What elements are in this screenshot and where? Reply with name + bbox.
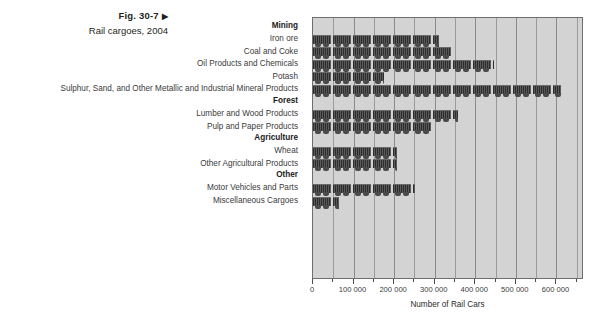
group-heading: Forest — [273, 97, 305, 105]
rail-car-icon — [313, 159, 331, 172]
rail-car-icon — [333, 35, 351, 48]
rail-car-icon — [313, 184, 331, 197]
gridline — [556, 18, 557, 278]
x-axis-tick-label: 600 000 — [542, 285, 569, 294]
figure-number-text: Fig. 30-7 — [118, 10, 158, 21]
rail-car-icon — [393, 35, 411, 48]
bar — [313, 60, 494, 73]
group-heading: Mining — [272, 22, 305, 30]
rail-car-icon — [353, 72, 371, 85]
category-label: Oil Products and Chemicals — [197, 60, 305, 68]
rail-car-icon — [353, 60, 371, 73]
rail-car-icon — [433, 110, 451, 123]
rail-car-icon — [493, 85, 511, 98]
rail-car-icon — [413, 35, 431, 48]
category-label: Other Agricultural Products — [200, 160, 305, 168]
rail-car-icon — [493, 60, 494, 73]
rail-car-icon — [393, 184, 411, 197]
rail-car-icon — [373, 47, 391, 60]
category-label: Motor Vehicles and Parts — [207, 184, 305, 192]
figure-caption: Fig. 30-7▶ Rail cargoes, 2004 — [18, 10, 168, 37]
x-axis-tick-label: 0 — [310, 285, 314, 294]
rail-car-icon — [393, 159, 397, 172]
rail-car-icon — [353, 35, 371, 48]
category-label: Coal and Coke — [244, 48, 305, 56]
x-axis-tick — [515, 279, 516, 284]
rail-car-icon — [433, 60, 451, 73]
gridline — [577, 18, 578, 278]
x-axis-tick — [434, 279, 435, 284]
figure-number: Fig. 30-7▶ — [18, 10, 168, 23]
group-heading: Other — [276, 171, 305, 179]
plot-area — [312, 17, 583, 279]
rail-car-icon — [313, 60, 331, 73]
rail-car-icon — [393, 110, 411, 123]
rail-car-icon — [353, 147, 371, 160]
rail-car-icon — [433, 85, 451, 98]
rail-car-icon — [373, 184, 391, 197]
category-label: Sulphur, Sand, and Other Metallic and In… — [60, 85, 305, 93]
rail-car-icon — [333, 85, 351, 98]
rail-car-icon — [313, 47, 331, 60]
figure-subtitle: Rail cargoes, 2004 — [18, 24, 168, 37]
rail-car-icon — [393, 47, 411, 60]
category-label: Miscellaneous Cargoes — [213, 197, 305, 205]
bar — [313, 72, 384, 85]
rail-car-icon — [313, 72, 331, 85]
rail-car-icon — [333, 110, 351, 123]
rail-car-icon — [393, 147, 397, 160]
rail-car-icon — [453, 85, 471, 98]
rail-car-icon — [393, 85, 411, 98]
x-axis-tick-label: 300 000 — [420, 285, 447, 294]
rail-car-icon — [453, 60, 471, 73]
rail-car-icon — [333, 47, 351, 60]
category-label: Wheat — [274, 147, 305, 155]
rail-car-icon — [393, 60, 411, 73]
rail-car-icon — [373, 72, 384, 85]
rail-car-icon — [473, 60, 491, 73]
rail-car-icon — [373, 122, 391, 135]
rail-car-icon — [313, 197, 331, 210]
rail-car-icon — [373, 147, 391, 160]
group-heading: Agriculture — [254, 134, 305, 142]
bar — [313, 184, 415, 197]
category-label: Iron ore — [270, 35, 305, 43]
rail-car-icon — [433, 47, 451, 60]
bar — [313, 147, 397, 160]
rail-car-icon — [353, 47, 371, 60]
rail-car-icon — [433, 35, 439, 48]
bar — [313, 85, 561, 98]
rail-car-icon — [333, 122, 351, 135]
rail-car-icon — [373, 159, 391, 172]
x-axis-tick — [393, 279, 394, 284]
rail-car-icon — [453, 110, 458, 123]
x-axis-minor-tick — [495, 279, 496, 282]
triangle-right-icon: ▶ — [162, 12, 168, 21]
x-axis-minor-tick — [576, 279, 577, 282]
x-axis-tick-label: 400 000 — [461, 285, 488, 294]
x-axis-tick-label: 100 000 — [339, 285, 366, 294]
x-axis-minor-tick — [413, 279, 414, 282]
x-axis-tick — [555, 279, 556, 284]
gridline — [475, 18, 476, 278]
rail-car-icon — [413, 85, 431, 98]
rail-car-icon — [393, 122, 411, 135]
rail-car-icon — [313, 85, 331, 98]
rail-car-icon — [413, 110, 431, 123]
x-axis-minor-tick — [373, 279, 374, 282]
x-axis: 0100 000200 000300 000400 000500 000600 … — [312, 279, 583, 285]
bar — [313, 47, 451, 60]
rail-car-icon — [473, 85, 491, 98]
rail-car-icon — [553, 85, 561, 98]
gridline — [516, 18, 517, 278]
category-label: Potash — [273, 73, 306, 81]
rail-car-icon — [373, 60, 391, 73]
bar — [313, 122, 432, 135]
gridline — [455, 18, 456, 278]
x-axis-tick-label: 500 000 — [501, 285, 528, 294]
rail-car-icon — [333, 72, 351, 85]
rail-car-icon — [413, 47, 431, 60]
rail-car-icon — [413, 60, 431, 73]
gridline — [496, 18, 497, 278]
rail-car-icon — [313, 110, 331, 123]
